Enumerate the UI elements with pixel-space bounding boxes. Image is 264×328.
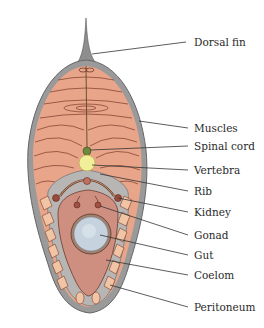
leader-peritoneum (110, 285, 188, 307)
label-gonad: Gonad (194, 229, 228, 241)
label-gut: Gut (194, 249, 213, 261)
spinal-cord-shape (83, 147, 91, 155)
label-peritoneum: Peritoneum (194, 301, 255, 313)
label-muscles: Muscles (194, 122, 238, 134)
label-spinal-cord: Spinal cord (194, 140, 255, 152)
vertebra-shape (79, 155, 95, 171)
label-vertebra: Vertebra (194, 164, 240, 176)
label-kidney: Kidney (194, 206, 231, 218)
label-coelom: Coelom (194, 269, 234, 281)
leader-muscles (139, 121, 188, 128)
leader-dorsal-fin (92, 42, 186, 54)
fish-cross-section-diagram: Dorsal fin Muscles Spinal cord Vertebra … (0, 0, 264, 328)
label-rib: Rib (194, 185, 212, 197)
label-dorsal-fin: Dorsal fin (194, 36, 246, 48)
dorsal-fin-shape (78, 18, 95, 62)
gut (71, 214, 111, 254)
